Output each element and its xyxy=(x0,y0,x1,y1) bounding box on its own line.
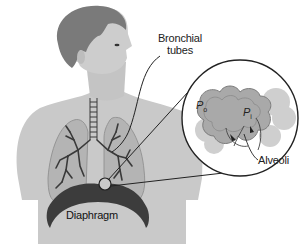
ear xyxy=(77,50,85,64)
p-outside-subscript: o xyxy=(203,106,207,113)
label-diaphragm: Diaphragm xyxy=(66,210,118,221)
p-inside-subscript: i xyxy=(250,113,252,120)
label-alveoli: Alveoli xyxy=(258,155,289,166)
label-bronchial-tubes: Bronchial tubes xyxy=(150,33,210,56)
bronchial-line1: Bronchial xyxy=(150,33,210,44)
bronchial-line2: tubes xyxy=(150,45,210,56)
label-p-outside: Po xyxy=(196,99,207,113)
label-p-inside: Pi xyxy=(243,106,252,120)
alveolus-marker xyxy=(99,178,111,190)
eye xyxy=(115,44,120,46)
